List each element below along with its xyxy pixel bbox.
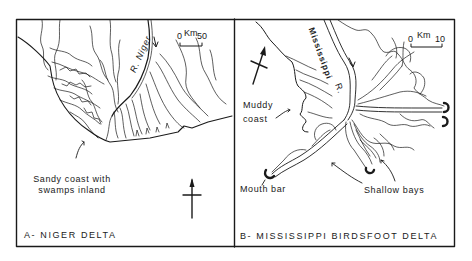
annotation-mouth-bar: Mouth bar <box>240 184 286 195</box>
annotation-shallow-bays: Shallow bays <box>364 185 424 196</box>
annotation-muddy-line1: Muddy <box>243 100 273 111</box>
figure-frame <box>17 20 455 247</box>
scale-b-max: 10 <box>435 34 445 44</box>
panel-b-title: B- MISSISSIPPI BIRDSFOOT DELTA <box>240 231 438 241</box>
scale-a-unit: Km <box>184 28 198 38</box>
annotation-sandy-coast-line2: swamps inland <box>26 185 118 196</box>
scale-a-zero: 0 <box>177 31 182 41</box>
scale-b-zero: 0 <box>408 34 413 44</box>
scale-bar-b <box>411 44 442 47</box>
panel-a-title: A- NIGER DELTA <box>24 230 117 240</box>
annotation-arrow-sandy-coast <box>76 142 84 158</box>
annotation-sandy-coast: Sandy coast with swamps inland <box>26 174 118 196</box>
annotation-arrow-shallow-bays-2 <box>381 160 395 181</box>
annotation-sandy-coast-line1: Sandy coast with <box>26 174 118 185</box>
scale-a-max: 50 <box>197 31 207 41</box>
map-drawing <box>0 0 472 261</box>
scale-b-unit: Km <box>417 30 431 40</box>
annotation-muddy-coast: Muddy coast <box>243 100 273 125</box>
annotation-arrow-muddy-coast <box>276 110 290 118</box>
annotation-arrow-shallow-bays-1 <box>332 163 362 183</box>
mississippi-delta-map <box>256 20 444 177</box>
delta-comparison-figure: R. Niger 0 Km 50 Sandy coast with swamps… <box>0 0 472 261</box>
scale-bar-a <box>180 43 202 46</box>
annotation-muddy-line2: coast <box>243 114 273 125</box>
